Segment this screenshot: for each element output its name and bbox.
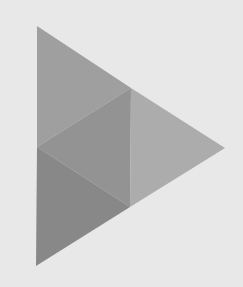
canvas [0, 0, 243, 287]
play-triangle-icon [0, 0, 243, 287]
